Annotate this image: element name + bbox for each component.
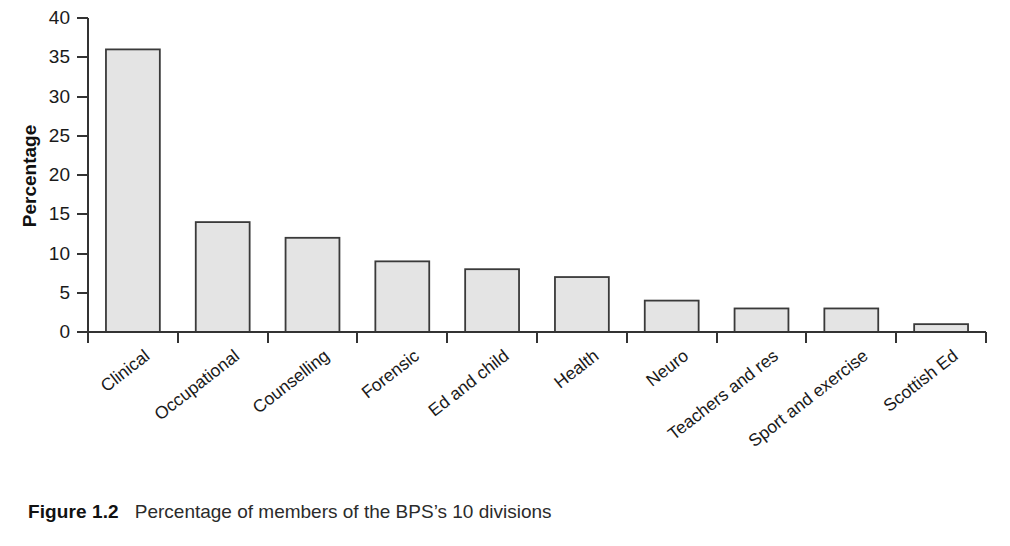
y-axis-ticks: 0510152025303540 [49, 7, 88, 342]
y-tick-label: 25 [49, 125, 70, 146]
x-tick-label: Counselling [249, 345, 333, 417]
x-tick-label: Clinical [97, 345, 154, 395]
y-tick-label: 15 [49, 203, 70, 224]
figure-caption-text: Percentage of members of the BPS’s 10 di… [135, 501, 552, 522]
bar-chart: Percentage 0510152025303540 ClinicalOccu… [0, 0, 1010, 500]
figure-container: Percentage 0510152025303540 ClinicalOccu… [0, 0, 1010, 546]
y-tick-label: 10 [49, 243, 70, 264]
y-tick-label: 20 [49, 164, 70, 185]
bar-series [106, 49, 968, 332]
bar [914, 324, 968, 332]
bar [645, 301, 699, 332]
bar [375, 261, 429, 332]
x-tick-label: Forensic [358, 345, 423, 402]
x-axis-ticks [88, 332, 986, 343]
bar [735, 308, 789, 332]
x-tick-label: Neuro [642, 345, 692, 390]
y-tick-label: 30 [49, 86, 70, 107]
y-axis-title-label: Percentage [19, 125, 40, 227]
x-axis-category-labels: ClinicalOccupationalCounsellingForensicE… [97, 345, 962, 451]
x-tick-label: Scottish Ed [879, 345, 961, 415]
bar [286, 238, 340, 332]
x-tick-label: Health [550, 345, 602, 392]
x-tick-label: Occupational [150, 345, 243, 424]
bar [465, 269, 519, 332]
y-tick-label: 40 [49, 7, 70, 28]
figure-caption: Figure 1.2Percentage of members of the B… [28, 500, 978, 524]
bar [555, 277, 609, 332]
bar [196, 222, 250, 332]
x-tick-label: Ed and child [424, 345, 512, 420]
y-tick-label: 35 [49, 46, 70, 67]
y-axis-title: Percentage [19, 125, 40, 227]
y-tick-label: 5 [59, 282, 70, 303]
bar [824, 308, 878, 332]
bar [106, 49, 160, 332]
y-tick-label: 0 [59, 321, 70, 342]
figure-caption-label: Figure 1.2 [28, 501, 119, 522]
